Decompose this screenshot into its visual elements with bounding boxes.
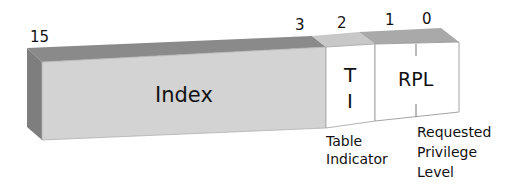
bit-label-0: 0	[422, 10, 432, 28]
ti-desc-line2: Indicator	[326, 151, 388, 167]
rpl-desc-line3: Level	[417, 164, 454, 180]
rpl-desc-line2: Privilege	[417, 144, 477, 160]
ti-desc-line1: Table	[325, 133, 362, 149]
box-left-face	[27, 48, 42, 140]
bit-label-15: 15	[30, 28, 49, 46]
bit-label-1: 1	[385, 11, 395, 29]
segment-selector-diagram: 15 3 2 1 0 Index T I RPL Table Indicator…	[0, 0, 525, 193]
ti-label-i: I	[347, 89, 353, 113]
rpl-label: RPL	[398, 68, 434, 90]
bit-label-3: 3	[295, 16, 305, 34]
index-label: Index	[155, 83, 213, 107]
bit-label-2: 2	[337, 14, 347, 32]
rpl-desc-line1: Requested	[417, 124, 491, 140]
ti-label-t: T	[343, 63, 357, 87]
rpl-top-face	[359, 28, 459, 44]
